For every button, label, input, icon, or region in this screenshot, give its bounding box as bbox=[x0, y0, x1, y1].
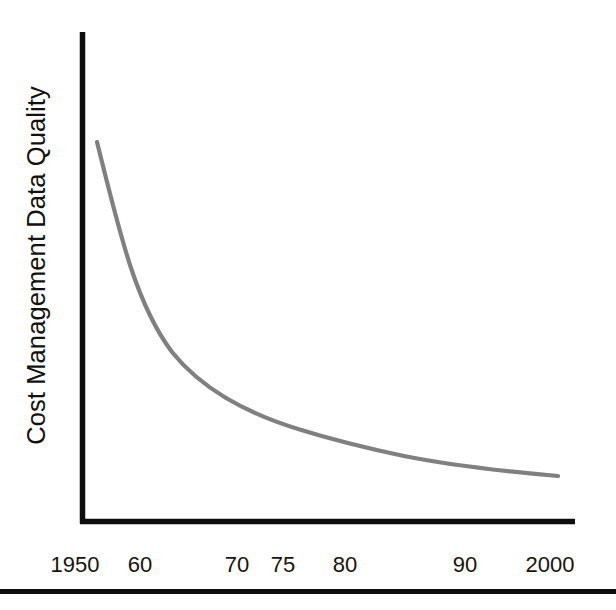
bottom-divider bbox=[0, 589, 616, 594]
x-tick-label-2000: 2000 bbox=[526, 552, 575, 578]
x-tick-label-70: 70 bbox=[225, 552, 249, 578]
data-curve-line bbox=[97, 142, 558, 476]
x-tick-label-90: 90 bbox=[453, 552, 477, 578]
x-tick-label-75: 75 bbox=[271, 552, 295, 578]
x-tick-label-1950: 1950 bbox=[51, 552, 100, 578]
chart-figure: Cost Management Data Quality 1950 60 70 … bbox=[0, 0, 616, 610]
x-axis-tick-labels: 1950 60 70 75 80 90 2000 bbox=[0, 552, 616, 584]
plot-area bbox=[0, 0, 616, 610]
x-tick-label-80: 80 bbox=[333, 552, 357, 578]
x-tick-label-60: 60 bbox=[128, 552, 152, 578]
